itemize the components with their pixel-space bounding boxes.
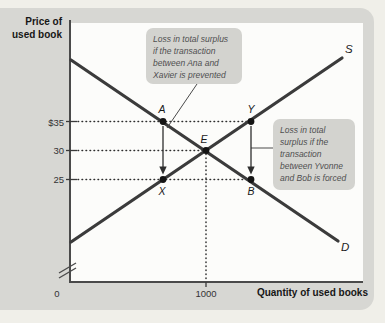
x-axis-title: Quantity of used books	[240, 287, 368, 298]
point-label-e: E	[196, 133, 212, 145]
x-tick-1000: 1000	[186, 288, 226, 299]
point-label-y: Y	[243, 103, 259, 115]
origin-label: 0	[50, 288, 64, 299]
demand-curve-label: D	[341, 241, 349, 253]
y-tick-25: 25	[30, 174, 64, 185]
callout-transaction-forced: Loss in total surplus if the transaction…	[273, 119, 355, 190]
y-tick-35: $35	[30, 117, 64, 128]
y-tick-30: 30	[30, 145, 64, 156]
supply-curve-label: S	[345, 43, 353, 55]
y-axis-title: Price of used book	[8, 15, 62, 41]
point-label-a: A	[154, 103, 170, 115]
callout-transaction-prevented: Loss in total surplus if the transaction…	[146, 28, 242, 84]
figure-canvas: Price of used book Quantity of used book…	[0, 0, 385, 323]
point-label-b: B	[243, 185, 259, 197]
point-label-x: X	[154, 185, 170, 197]
